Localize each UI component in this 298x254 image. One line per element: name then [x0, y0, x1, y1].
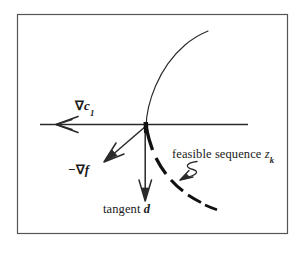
minus-sign: −	[68, 162, 76, 177]
label-gradient-c1: ∇c1	[75, 99, 95, 115]
label-feasible-sequence: feasible sequence zk	[172, 148, 274, 163]
nabla-icon: ∇	[75, 98, 84, 113]
label-feasible-sequence-base: z	[265, 147, 270, 161]
origin-marker	[144, 122, 149, 133]
label-tangent-d-base: d	[144, 202, 150, 216]
label-feasible-sequence-subscript: k	[270, 155, 274, 165]
label-tangent-d-text: tangent	[103, 202, 144, 216]
label-feasible-sequence-text: feasible sequence	[172, 147, 265, 161]
label-gradient-c1-subscript: 1	[90, 108, 95, 118]
figure-container: ∇c1 −∇f tangent d feasible sequence zk	[0, 0, 298, 254]
label-negative-gradient-f-base: f	[85, 162, 89, 177]
label-tangent-d: tangent d	[103, 203, 150, 216]
nabla-icon: ∇	[76, 162, 85, 177]
label-negative-gradient-f: −∇f	[68, 163, 89, 176]
